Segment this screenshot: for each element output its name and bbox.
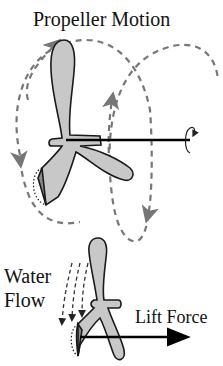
propeller-upper [33,40,132,205]
lift-force-label: Lift Force [135,308,207,326]
propeller-lower [71,238,124,360]
water-flow-arrows [62,263,88,322]
water-flow-label: Water Flow [4,264,51,312]
water-flow-line2: Flow [4,288,51,312]
water-flow-line1: Water [4,264,51,288]
